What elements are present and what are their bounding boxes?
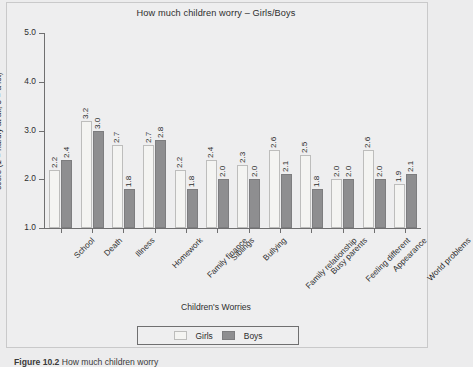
- x-tick-mark: [61, 229, 62, 233]
- bar-girls: [394, 184, 405, 228]
- x-axis-label: Children's Worries: [0, 302, 432, 312]
- bar-value-label: 3.0: [93, 117, 102, 128]
- bar-value-label: 2.0: [375, 166, 384, 177]
- bar-value-label: 2.6: [363, 137, 372, 148]
- y-tick-label: 4.0: [2, 76, 36, 86]
- bar-value-label: 2.7: [112, 132, 121, 143]
- bar-girls: [175, 170, 186, 229]
- bar-boys: [155, 140, 166, 228]
- bar-value-label: 2.2: [50, 156, 59, 167]
- bar-boys: [187, 189, 198, 228]
- x-tick-mark: [249, 229, 250, 233]
- x-tick-mark: [374, 229, 375, 233]
- figure-caption-label: Figure 10.2: [14, 357, 59, 367]
- y-tick-label: 3.0: [2, 125, 36, 135]
- bar-series-group: 2.22.43.23.02.71.82.72.82.21.82.42.02.32…: [45, 33, 421, 228]
- legend-swatch-girls: [174, 331, 187, 340]
- bar-girls: [143, 145, 154, 228]
- y-tick-label: 1.0: [2, 222, 36, 232]
- x-axis-line: [44, 228, 421, 229]
- x-tick-mark: [405, 229, 406, 233]
- x-tick-mark: [311, 229, 312, 233]
- bar-value-label: 2.4: [206, 146, 215, 157]
- bar-value-label: 2.0: [332, 166, 341, 177]
- x-tick-mark: [343, 229, 344, 233]
- x-category-label: World problems: [426, 236, 473, 283]
- bar-boys: [61, 160, 72, 228]
- x-tick-mark: [217, 229, 218, 233]
- figure-caption-text: How much children worry: [62, 357, 158, 367]
- bar-girls: [300, 155, 311, 228]
- x-tick-mark: [186, 229, 187, 233]
- legend-label-girls: Girls: [196, 331, 213, 341]
- bar-value-label: 2.6: [269, 137, 278, 148]
- bar-value-label: 2.7: [144, 132, 153, 143]
- bar-value-label: 2.0: [250, 166, 259, 177]
- bar-value-label: 1.8: [124, 176, 133, 187]
- bar-boys: [249, 179, 260, 228]
- bar-girls: [269, 150, 280, 228]
- x-tick-mark: [280, 229, 281, 233]
- chart-legend: Girls Boys: [137, 326, 299, 345]
- bar-boys: [343, 179, 354, 228]
- bar-value-label: 2.5: [300, 142, 309, 153]
- bar-value-label: 2.0: [218, 166, 227, 177]
- bar-value-label: 1.8: [312, 176, 321, 187]
- bar-value-label: 2.8: [156, 127, 165, 138]
- bar-value-label: 2.4: [62, 146, 71, 157]
- bar-girls: [206, 160, 217, 228]
- bar-boys: [312, 189, 323, 228]
- y-tick-label: 2.0: [2, 173, 36, 183]
- bar-value-label: 3.2: [81, 107, 90, 118]
- bar-boys: [375, 179, 386, 228]
- bar-value-label: 2.3: [238, 151, 247, 162]
- bar-boys: [281, 174, 292, 228]
- bar-boys: [124, 189, 135, 228]
- bar-value-label: 2.1: [281, 161, 290, 172]
- bar-boys: [93, 131, 104, 229]
- bar-value-label: 2.2: [175, 156, 184, 167]
- bar-boys: [406, 174, 417, 228]
- legend-label-boys: Boys: [244, 331, 263, 341]
- x-tick-mark: [123, 229, 124, 233]
- bar-value-label: 2.0: [344, 166, 353, 177]
- bar-girls: [363, 150, 374, 228]
- bar-value-label: 1.9: [394, 171, 403, 182]
- bar-girls: [331, 179, 342, 228]
- x-tick-mark: [155, 229, 156, 233]
- bar-girls: [237, 165, 248, 228]
- bar-girls: [112, 145, 123, 228]
- y-tick-label: 5.0: [2, 27, 36, 37]
- bar-girls: [49, 170, 60, 229]
- figure-caption: Figure 10.2 How much children worry: [14, 357, 424, 367]
- bar-boys: [218, 179, 229, 228]
- legend-swatch-boys: [222, 331, 235, 340]
- chart-title: How much children worry – Girls/Boys: [0, 8, 432, 18]
- bar-girls: [81, 121, 92, 228]
- bar-value-label: 2.1: [406, 161, 415, 172]
- x-tick-mark: [92, 229, 93, 233]
- bar-value-label: 1.8: [187, 176, 196, 187]
